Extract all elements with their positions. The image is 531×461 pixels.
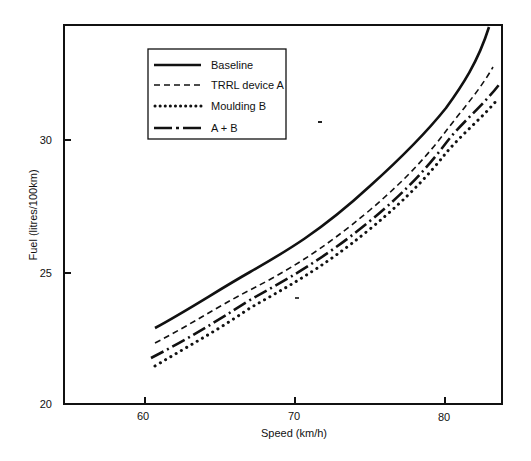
x-axis-title: Speed (km/h) bbox=[261, 427, 327, 439]
y-tick-label: 25 bbox=[40, 267, 52, 279]
legend-label: A + B bbox=[211, 122, 238, 134]
legend-label: Baseline bbox=[211, 59, 253, 71]
x-tick-label: 60 bbox=[137, 410, 149, 422]
scan-speck bbox=[295, 297, 299, 299]
y-axis-title: Fuel (litres/100km) bbox=[27, 169, 39, 260]
fuel-speed-chart: 60 70 80 Speed (km/h) 30 25 20 Fuel (lit… bbox=[0, 0, 531, 461]
legend-label: Moulding B bbox=[211, 100, 266, 112]
moulding-b-line bbox=[155, 100, 497, 366]
y-tick-label: 20 bbox=[40, 398, 52, 410]
y-tick-label: 30 bbox=[40, 134, 52, 146]
scan-speck bbox=[318, 121, 322, 123]
legend-label: TRRL device A bbox=[211, 79, 285, 91]
x-tick-label: 80 bbox=[438, 411, 450, 423]
legend: Baseline TRRL device A Moulding B A + B bbox=[148, 49, 286, 139]
x-tick-label: 70 bbox=[288, 410, 300, 422]
